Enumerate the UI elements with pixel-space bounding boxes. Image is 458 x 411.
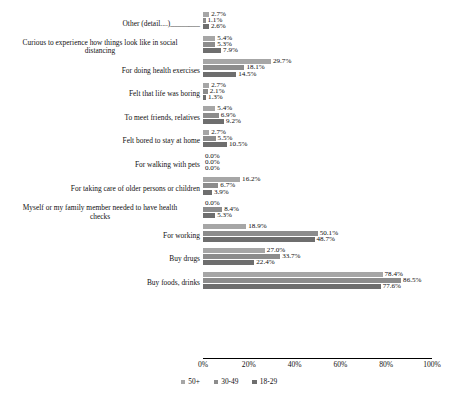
bar-group: 0.0%0.0%0.0%: [203, 154, 458, 178]
legend-label: 50+: [188, 378, 200, 386]
legend-swatch-icon: [181, 380, 185, 384]
category-label: For taking care of older persons or chil…: [0, 185, 203, 194]
bar-line: 5.3%: [203, 42, 458, 47]
bar-value-label: 1.3%: [206, 94, 223, 101]
bar-line: 1.1%: [203, 18, 458, 23]
x-axis-tick-label: 40%: [288, 360, 302, 369]
bar-line: 6.7%: [203, 183, 458, 188]
bar: [203, 284, 381, 289]
x-axis-tick-label: 60%: [333, 360, 347, 369]
category-label: For working: [0, 232, 203, 241]
bar-line: 7.9%: [203, 48, 458, 53]
x-axis-ticks: 0%20%40%60%80%100%: [0, 360, 458, 374]
category-row: For taking care of older persons or chil…: [0, 177, 458, 201]
x-axis-tick-label: 0%: [198, 360, 208, 369]
legend-swatch-icon: [252, 380, 256, 384]
bar-line: 2.7%: [203, 130, 458, 135]
bar-group: 5.4%6.9%9.2%: [203, 106, 458, 130]
bar: [203, 272, 383, 277]
bar-value-label: 86.5%: [401, 277, 421, 284]
chart-legend: 50+30-4918-29: [0, 378, 458, 386]
category-row: Felt bored to stay at home2.7%5.5%10.5%: [0, 130, 458, 154]
bar: [203, 48, 221, 53]
bar-line: 6.9%: [203, 113, 458, 118]
bar-value-label: 77.6%: [381, 283, 401, 290]
legend-item: 18-29: [252, 378, 277, 386]
bar-line: 0.0%: [203, 166, 458, 171]
bar-line: 16.2%: [203, 177, 458, 182]
category-label: Buy foods, drinks: [0, 279, 203, 288]
bar-value-label: 2.6%: [209, 23, 226, 30]
bar-value-label: 16.2%: [240, 176, 260, 183]
bar-line: 2.7%: [203, 12, 458, 17]
bar-value-label: 10.5%: [227, 141, 247, 148]
legend-label: 30-49: [221, 378, 238, 386]
bar-line: 1.3%: [203, 95, 458, 100]
bar-value-label: 3.9%: [212, 189, 229, 196]
bar-group: 2.7%1.1%2.6%: [203, 12, 458, 36]
legend-swatch-icon: [214, 380, 218, 384]
bar: [203, 36, 215, 41]
bar-group: 5.4%5.3%7.9%: [203, 36, 458, 60]
bar: [203, 190, 212, 195]
category-row: Other (detail....)________2.7%1.1%2.6%: [0, 12, 458, 36]
bar-group: 27.0%33.7%22.4%: [203, 248, 458, 272]
category-row: Curious to experience how things look li…: [0, 36, 458, 60]
x-axis-tick-label: 80%: [379, 360, 393, 369]
bar-group: 2.7%2.1%1.3%: [203, 83, 458, 107]
bar-line: 5.4%: [203, 36, 458, 41]
bar-line: 29.7%: [203, 59, 458, 64]
bar: [203, 119, 224, 124]
category-row: For working18.9%50.1%48.7%: [0, 224, 458, 248]
bar-group: 2.7%5.5%10.5%: [203, 130, 458, 154]
category-label: For walking with pets: [0, 161, 203, 170]
bar-line: 33.7%: [203, 254, 458, 259]
bar: [203, 278, 401, 283]
category-row: To meet friends, relatives5.4%6.9%9.2%: [0, 106, 458, 130]
category-label: Felt bored to stay at home: [0, 137, 203, 146]
bar: [203, 142, 227, 147]
legend-item: 30-49: [214, 378, 239, 386]
bar-line: 5.3%: [203, 213, 458, 218]
category-row: Buy drugs27.0%33.7%22.4%: [0, 248, 458, 272]
category-label: For doing health exercises: [0, 67, 203, 76]
bar: [203, 237, 315, 242]
plot-area: Other (detail....)________2.7%1.1%2.6%Cu…: [0, 0, 458, 366]
bar-value-label: 22.4%: [254, 259, 274, 266]
bar-value-label: 48.7%: [315, 236, 335, 243]
x-axis-tick-label: 20%: [242, 360, 256, 369]
category-label: Felt that life was boring: [0, 90, 203, 99]
x-axis-tick-label: 100%: [423, 360, 441, 369]
bar: [203, 113, 219, 118]
category-row: Felt that life was boring2.7%2.1%1.3%: [0, 83, 458, 107]
bar: [203, 248, 265, 253]
category-row: Myself or my family member needed to hav…: [0, 201, 458, 225]
category-label: Curious to experience how things look li…: [0, 39, 203, 56]
bar: [203, 106, 215, 111]
bar-group: 18.9%50.1%48.7%: [203, 224, 458, 248]
category-rows: Other (detail....)________2.7%1.1%2.6%Cu…: [0, 12, 458, 295]
bar-group: 16.2%6.7%3.9%: [203, 177, 458, 201]
bar: [203, 72, 236, 77]
bar: [203, 213, 215, 218]
bar-line: 2.1%: [203, 89, 458, 94]
bar-value-label: 0.0%: [203, 165, 220, 172]
bar-line: 10.5%: [203, 142, 458, 147]
bar-line: 9.2%: [203, 119, 458, 124]
bar: [203, 42, 215, 47]
category-row: For doing health exercises29.7%18.1%14.5…: [0, 59, 458, 83]
bar-value-label: 18.9%: [246, 223, 266, 230]
bar-line: 0.0%: [203, 201, 458, 206]
bar: [203, 136, 216, 141]
bar-group: 29.7%18.1%14.5%: [203, 59, 458, 83]
bar-line: 22.4%: [203, 260, 458, 265]
bar: [203, 224, 246, 229]
bar-line: 2.7%: [203, 83, 458, 88]
category-label: Other (detail....)________: [0, 20, 203, 29]
category-label: To meet friends, relatives: [0, 114, 203, 123]
bar-value-label: 0.0%: [203, 200, 220, 207]
bar-line: 14.5%: [203, 72, 458, 77]
bar-value-label: 78.4%: [383, 271, 403, 278]
bar-value-label: 7.9%: [221, 47, 238, 54]
bar-line: 48.7%: [203, 237, 458, 242]
